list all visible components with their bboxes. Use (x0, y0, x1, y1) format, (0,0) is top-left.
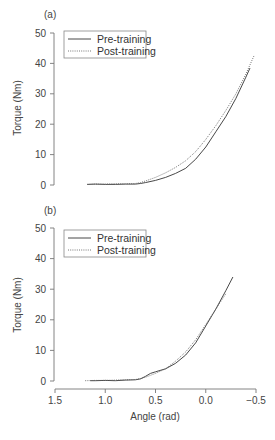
x-tick-label: −0.5 (246, 395, 266, 406)
panel-b-y-axis: 01020304050 (35, 223, 54, 387)
y-tick-label: 10 (35, 149, 47, 160)
y-tick-label: 20 (35, 119, 47, 130)
y-tick-label: 50 (35, 28, 47, 39)
x-tick-label: 0.0 (199, 395, 213, 406)
panel-a-label: (a) (44, 9, 56, 20)
panel-a: (a) 01020304050 Torque (Nm) Pre-training… (12, 9, 254, 191)
panel-b-x-axis: 1.51.00.50.0−0.5 (48, 389, 266, 406)
panel-a-plot-lines (87, 56, 254, 185)
post-training-line (85, 294, 226, 381)
x-tick-label: 1.0 (98, 395, 112, 406)
pre-training-line (87, 68, 250, 184)
panel-a-legend: Pre-training Post-training (64, 31, 156, 58)
y-tick-label: 0 (40, 180, 46, 191)
legend-pre-training: Pre-training (97, 232, 151, 244)
y-tick-label: 20 (35, 314, 47, 325)
legend-pre-training: Pre-training (97, 33, 151, 45)
legend-post-training: Post-training (97, 45, 156, 57)
y-tick-label: 50 (35, 223, 47, 234)
x-tick-label: 0.5 (149, 395, 163, 406)
y-tick-label: 0 (40, 376, 46, 387)
panel-b-plot-lines (85, 277, 233, 381)
figure: (a) 01020304050 Torque (Nm) Pre-training… (0, 0, 275, 440)
y-tick-label: 10 (35, 345, 47, 356)
panel-a-y-axis: 01020304050 (35, 28, 54, 191)
panel-b-legend: Pre-training Post-training (64, 230, 156, 257)
panel-b-x-axis-label: Angle (rad) (130, 411, 179, 422)
legend-post-training: Post-training (97, 244, 156, 256)
panel-b: (b) 01020304050 Torque (Nm) 1.51.00.50.0… (12, 205, 266, 422)
panel-b-y-axis-label: Torque (Nm) (12, 277, 23, 333)
panel-a-y-axis-label: Torque (Nm) (12, 80, 23, 136)
y-tick-label: 30 (35, 88, 47, 99)
post-training-line (87, 56, 254, 185)
pre-training-line (90, 277, 233, 381)
panel-b-label: (b) (44, 205, 56, 216)
x-tick-label: 1.5 (48, 395, 62, 406)
y-tick-label: 30 (35, 284, 47, 295)
y-tick-label: 40 (35, 253, 47, 264)
y-tick-label: 40 (35, 58, 47, 69)
